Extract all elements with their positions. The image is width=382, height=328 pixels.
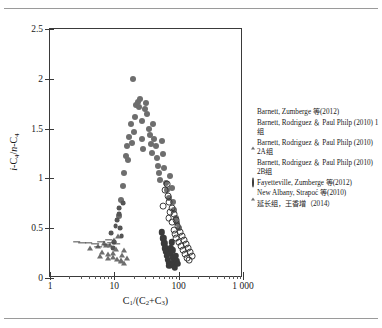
data-point — [87, 246, 93, 251]
x-tick-minor — [81, 276, 82, 279]
x-tick-mark — [50, 276, 51, 280]
data-point — [128, 121, 134, 127]
data-point — [172, 231, 179, 238]
legend-item[interactable]: 延长组，王香增（2014） — [248, 200, 380, 209]
data-point — [186, 257, 193, 264]
legend-item-label: New Albany, Strapoć 等(2010) — [257, 189, 380, 198]
x-tick-minor — [134, 276, 135, 279]
x-tick-minor — [108, 276, 109, 279]
legend-item[interactable]: Barnett, Rodriguez ＆ Paul Philp (2010) 2… — [248, 139, 380, 157]
y-tick-label: 1.5 — [31, 124, 43, 134]
x-tick-mark — [243, 276, 244, 280]
data-point — [109, 231, 114, 236]
data-point — [156, 170, 162, 176]
data-point — [149, 150, 155, 156]
x-tick-mark — [179, 276, 180, 280]
x-tick-minor — [164, 276, 165, 279]
x-tick-minor — [233, 276, 234, 279]
y-tick-label: 2.5 — [31, 24, 43, 34]
data-point — [165, 215, 172, 222]
data-point — [125, 157, 131, 163]
legend-item[interactable]: Fayetteville, Zumberge 等(2012) — [248, 179, 380, 188]
data-point — [153, 143, 159, 149]
y-tick-label: 2 — [38, 74, 43, 84]
chart-legend: Barnett, Zumberge 等(2012)Barnett, Rodrig… — [248, 108, 380, 211]
data-point — [124, 256, 130, 261]
x-tick-minor — [89, 276, 90, 279]
legend-item-label: Barnett, Rodriguez ＆ Paul Philp (2010) 1… — [257, 119, 380, 137]
x-tick-minor — [237, 276, 238, 279]
data-point — [167, 173, 173, 179]
data-point — [117, 212, 122, 217]
plot-frame: 00.511.522.5 1101001 000 — [49, 28, 242, 277]
legend-item[interactable]: Barnett, Rodriguez ＆ Paul Philp (2010) 1… — [248, 119, 380, 137]
data-point — [131, 129, 137, 135]
y-tick-label: 0 — [38, 273, 43, 283]
data-point — [160, 203, 167, 210]
x-tick-minor — [240, 276, 241, 279]
data-point — [137, 96, 143, 102]
legend-marker-icon — [248, 119, 257, 128]
data-point — [160, 151, 166, 157]
legend-item-label: Barnett, Rodriguez ＆ Paul Philp (2010) 2… — [257, 139, 380, 157]
data-point — [140, 146, 146, 152]
x-tick-minor — [229, 276, 230, 279]
legend-item[interactable]: Barnett, Zumberge 等(2012) — [248, 108, 380, 117]
x-tick-inner — [243, 272, 244, 276]
x-tick-label: 10 — [110, 281, 120, 291]
x-tick-minor — [209, 276, 210, 279]
legend-item-label: 延长组，王香增（2014） — [257, 200, 380, 209]
y-tick-label: 1 — [38, 173, 43, 183]
x-tick-label: 1 000 — [232, 281, 253, 291]
x-tick-minor — [153, 276, 154, 279]
data-point — [105, 239, 113, 240]
bottom-divider-rule — [4, 318, 378, 319]
data-point — [139, 136, 145, 142]
data-point — [164, 181, 171, 188]
x-tick-mark — [114, 276, 115, 280]
data-point — [144, 111, 150, 117]
legend-item[interactable]: New Albany, Strapoć 等(2010) — [248, 189, 380, 198]
x-tick-minor — [95, 276, 96, 279]
legend-item-label: Fayetteville, Zumberge 等(2012) — [257, 179, 380, 188]
legend-marker-icon — [248, 159, 257, 168]
data-point — [155, 163, 161, 169]
legend-marker-icon — [248, 179, 257, 188]
data-point — [132, 114, 138, 120]
data-point — [97, 241, 105, 242]
x-tick-minor — [159, 276, 160, 279]
x-tick-minor — [169, 276, 170, 279]
data-point — [174, 261, 180, 267]
data-point — [121, 201, 126, 206]
data-point — [121, 170, 127, 176]
x-axis-title-text: C1/(C2+C3) — [123, 295, 168, 306]
legend-item-label: Barnett, Zumberge 等(2012) — [257, 108, 380, 117]
x-tick-minor — [172, 276, 173, 279]
data-point — [117, 206, 122, 211]
x-tick-minor — [145, 276, 146, 279]
x-tick-label: 1 — [48, 281, 53, 291]
y-axis-title: i-C4/n-C4 — [8, 133, 19, 170]
legend-item-label: Barnett, Rodriguez ＆ Paul Philp (2010) 2… — [257, 159, 380, 177]
y-axis-title-text: i-C4/n-C4 — [8, 133, 19, 170]
data-point — [118, 226, 123, 231]
data-point — [151, 136, 157, 142]
x-tick-minor — [198, 276, 199, 279]
top-divider-rule — [4, 8, 378, 9]
data-point — [143, 100, 149, 106]
data-point — [119, 234, 124, 239]
x-tick-minor — [100, 276, 101, 279]
legend-marker-icon — [248, 189, 257, 198]
data-point — [103, 244, 111, 245]
data-point — [94, 246, 102, 247]
x-tick-minor — [224, 276, 225, 279]
data-point — [159, 138, 165, 144]
x-tick-minor — [217, 276, 218, 279]
data-point — [154, 155, 160, 161]
data-point — [130, 76, 136, 82]
data-point — [120, 183, 126, 189]
data-point — [129, 140, 135, 146]
data-point — [139, 118, 145, 124]
legend-item[interactable]: Barnett, Rodriguez ＆ Paul Philp (2010) 2… — [248, 159, 380, 177]
legend-marker-icon — [248, 108, 257, 117]
